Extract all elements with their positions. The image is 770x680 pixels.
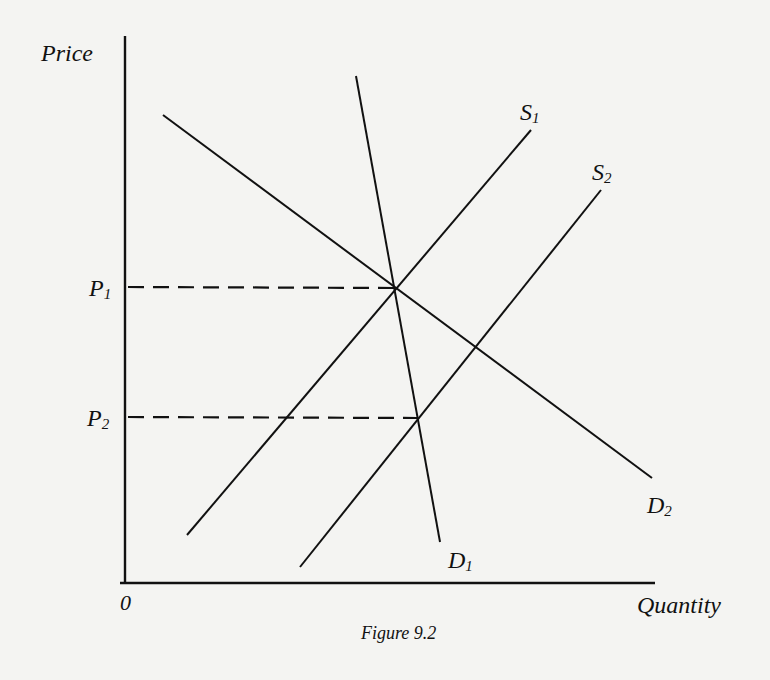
p2-label: P2 xyxy=(87,406,109,432)
s2-label: S2 xyxy=(592,160,612,186)
p1-label-sub: 1 xyxy=(104,286,112,302)
s1-label-sub: 1 xyxy=(532,110,540,126)
plot-area xyxy=(0,0,770,680)
p1-guide-line xyxy=(128,287,394,288)
d2-curve xyxy=(163,115,652,478)
p2-label-main: P xyxy=(87,405,102,431)
p2-guide-line xyxy=(128,417,417,418)
d1-label: D1 xyxy=(448,548,473,574)
p2-label-sub: 2 xyxy=(102,416,110,432)
s1-label-main: S xyxy=(520,99,532,125)
d2-label: D2 xyxy=(647,493,672,519)
s2-label-main: S xyxy=(592,159,604,185)
d2-label-sub: 2 xyxy=(664,503,672,519)
s1-curve xyxy=(187,130,531,535)
s2-label-sub: 2 xyxy=(604,170,612,186)
origin-label: 0 xyxy=(120,592,131,614)
d1-curve xyxy=(356,76,440,542)
s1-label: S1 xyxy=(520,100,540,126)
p1-label-main: P xyxy=(89,275,104,301)
d2-label-main: D xyxy=(647,492,664,518)
p1-label: P1 xyxy=(89,276,111,302)
d1-label-main: D xyxy=(448,547,465,573)
d1-label-sub: 1 xyxy=(465,558,473,574)
s2-curve xyxy=(300,190,601,567)
x-axis-label: Quantity xyxy=(637,593,721,617)
figure-caption: Figure 9.2 xyxy=(361,623,436,644)
y-axis-label: Price xyxy=(41,41,93,65)
supply-demand-figure: Price Quantity 0 P1 P2 S1 S2 D1 D2 Figur… xyxy=(0,0,770,680)
